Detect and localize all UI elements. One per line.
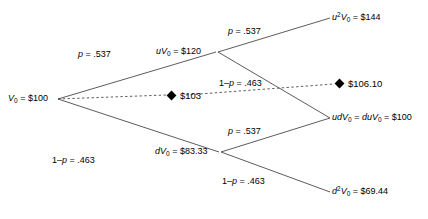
prob-up-up: p = .537 — [228, 26, 261, 37]
node-down-1: dV0 = $83.33 — [155, 146, 207, 157]
node-up-up: u2V0 = $144 — [332, 12, 381, 23]
node-root: V0 = $100 — [8, 93, 48, 104]
prob-down-down: 1–p = .463 — [222, 176, 265, 187]
option-value-103: $103 — [180, 90, 201, 101]
edge-root-down — [58, 99, 219, 152]
prob-root-up: p = .537 — [78, 49, 111, 60]
binomial-tree-diagram: V0 = $100 uV0 = $120 dV0 = $83.33 u2V0 =… — [0, 0, 428, 219]
prob-root-down: 1–p = .463 — [52, 155, 95, 166]
solid-branches — [58, 18, 330, 192]
node-down-down: d2V0 = $69.44 — [332, 186, 388, 197]
node-up-down: udV0 = duV0 = $100 — [332, 112, 412, 123]
node-up-1: uV0 = $120 — [156, 46, 201, 57]
option-value-106: $106.10 — [348, 78, 382, 89]
prob-down-up: p = .537 — [228, 126, 261, 137]
prob-up-down: 1–p = .463 — [219, 78, 262, 89]
dashed-root-to-103 — [58, 95, 166, 99]
